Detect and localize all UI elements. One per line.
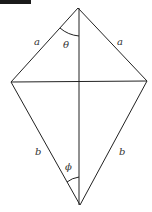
edge-lower-left [11,82,80,205]
theta-angle-arc [60,28,79,36]
label-phi: ϕ [65,161,72,172]
label-theta: θ [63,39,69,50]
label-lower-right-side: b [119,146,125,157]
phi-angle-arc [67,177,79,182]
edge-upper-right [78,8,147,81]
label-lower-left-side: b [35,146,41,157]
label-upper-left-side: a [34,36,40,47]
edge-lower-right [80,81,147,205]
label-upper-right-side: a [117,36,123,47]
kite-diagram: a a θ b b ϕ [0,0,152,212]
